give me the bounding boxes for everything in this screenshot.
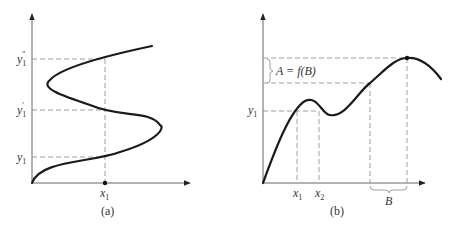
label-x1-b: x1 [292,186,302,202]
figure-a: y1″ y1′ y1 x1 (a) [16,14,190,218]
label-x1: x1 [99,186,109,202]
a-brace [267,59,273,83]
b-brace [370,186,407,193]
label-y1-b: y1 [247,103,257,119]
s-curve [32,46,162,183]
figure-b: A = f(B) y1 x1 x2 B (b) [247,14,441,218]
diagram-canvas: y1″ y1′ y1 x1 (a) A = f(B) [0,0,453,233]
peak-point [405,56,409,60]
label-x2-b: x2 [314,186,324,202]
caption-a: (a) [101,204,114,218]
annotation-a-equals-f-b: A = f(B) [275,64,316,78]
caption-b: (b) [330,204,344,218]
label-y1: y1 [16,150,26,166]
label-y1-double-prime: y1″ [16,50,26,68]
label-y1-prime: y1′ [16,101,26,119]
x1-point [103,181,107,185]
label-b: B [385,194,393,208]
